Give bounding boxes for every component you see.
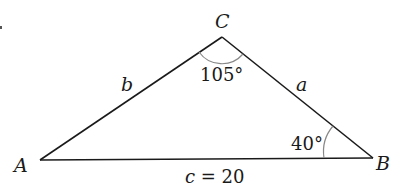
stray-mark xyxy=(0,26,2,29)
side-label-b: b xyxy=(121,73,133,95)
angle-label-b: 40° xyxy=(291,133,323,154)
vertex-label-a: A xyxy=(12,154,28,176)
triangle-diagram: A B C b a c = 20 105° 40° xyxy=(0,0,398,185)
side-b xyxy=(40,37,222,160)
side-c xyxy=(40,158,373,160)
side-label-a: a xyxy=(296,73,307,95)
angle-label-c: 105° xyxy=(200,64,243,85)
side-label-c: c = 20 xyxy=(185,166,245,185)
vertex-label-c: C xyxy=(215,10,230,32)
angle-arc-c xyxy=(199,52,243,64)
angle-arc-b xyxy=(324,126,333,158)
vertex-label-b: B xyxy=(375,152,390,174)
